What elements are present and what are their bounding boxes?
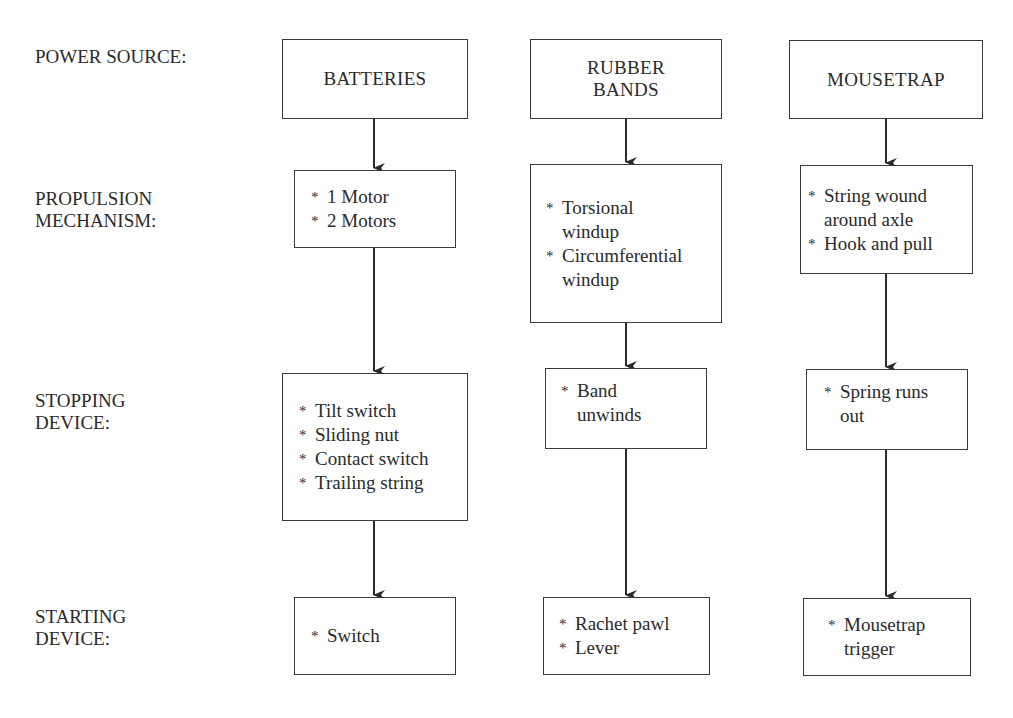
list-item: *Band unwinds [561,379,706,427]
list-item: *Mousetrap trigger [828,613,970,661]
bullet-icon: * [311,185,327,209]
item-text: Lever [575,636,619,660]
item-text: Contact switch [315,447,428,471]
power-source-batteries-box: BATTERIES [282,39,468,119]
starting-rubber-bands-box: *Rachet pawl *Lever [543,597,710,675]
power-source-mousetrap-box: MOUSETRAP [789,40,983,119]
list-item: *Spring runs out [824,380,967,428]
starting-mousetrap-box: *Mousetrap trigger [803,598,971,676]
propulsion-rubber-bands-box: *Torsional windup *Circumferential windu… [530,164,722,323]
item-text: Hook and pull [824,232,933,256]
bullet-icon: * [299,423,315,447]
item-text: Spring runs out [840,380,928,428]
bullet-icon: * [559,636,575,660]
list-item: *Lever [559,636,709,660]
item-text: Mousetrap trigger [844,613,925,661]
bullet-icon: * [299,447,315,471]
item-text: Circumferential windup [562,244,682,292]
power-source-rubber-bands-box: RUBBER BANDS [530,39,722,119]
list-item: *Circumferential windup [546,244,721,292]
stopping-batteries-box: *Tilt switch *Sliding nut *Contact switc… [282,373,468,521]
item-text: 2 Motors [327,209,396,233]
item-text: Torsional windup [562,196,634,244]
list-item: *Switch [311,624,455,648]
stopping-mousetrap-box: *Spring runs out [806,369,968,450]
item-text: Switch [327,624,380,648]
list-item: *Tilt switch [299,399,467,423]
bullet-icon: * [808,184,824,232]
stopping-rubber-bands-box: *Band unwinds [545,368,707,449]
bullet-icon: * [561,379,577,427]
bullet-icon: * [299,471,315,495]
item-text: Band unwinds [577,379,641,427]
item-text: Sliding nut [315,423,399,447]
list-item: *Contact switch [299,447,467,471]
propulsion-batteries-box: *1 Motor *2 Motors [294,170,456,248]
propulsion-mousetrap-box: *String wound around axle *Hook and pull [800,165,973,274]
item-text: Tilt switch [315,399,396,423]
list-item: *Rachet pawl [559,612,709,636]
bullet-icon: * [311,209,327,233]
list-item: *String wound around axle [808,184,972,232]
item-text: 1 Motor [327,185,389,209]
item-text: Rachet pawl [575,612,669,636]
list-item: *Torsional windup [546,196,721,244]
list-item: *1 Motor [311,185,455,209]
bullet-icon: * [546,244,562,292]
list-item: *Sliding nut [299,423,467,447]
starting-batteries-box: *Switch [294,597,456,675]
bullet-icon: * [559,612,575,636]
bullet-icon: * [546,196,562,244]
list-item: *2 Motors [311,209,455,233]
bullet-icon: * [311,624,327,648]
item-text: Trailing string [315,471,424,495]
item-text: String wound around axle [824,184,927,232]
bullet-icon: * [299,399,315,423]
list-item: *Trailing string [299,471,467,495]
bullet-icon: * [828,613,844,661]
bullet-icon: * [808,232,824,256]
list-item: *Hook and pull [808,232,972,256]
bullet-icon: * [824,380,840,428]
